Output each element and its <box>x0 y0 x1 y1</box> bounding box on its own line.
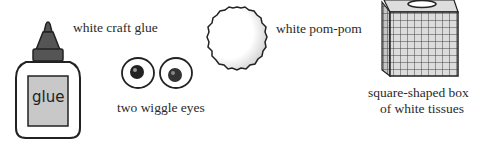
glue-bottle-label-text: glue <box>32 88 64 106</box>
tissue-caption-line2: of white tissues <box>380 101 464 117</box>
wiggle-eyes-icon <box>120 56 196 92</box>
tissue-box-icon <box>380 0 462 80</box>
glue-caption: white craft glue <box>73 20 158 36</box>
pom-pom-icon <box>204 4 270 74</box>
tissue-caption-line1: square-shaped box <box>368 85 469 101</box>
eyes-caption: two wiggle eyes <box>117 100 205 116</box>
pom-pom-caption: white pom-pom <box>276 21 362 37</box>
glue-bottle-icon <box>12 20 84 142</box>
